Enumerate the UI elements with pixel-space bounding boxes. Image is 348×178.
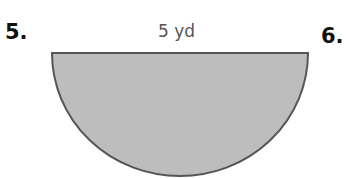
- semicircle-shape: [52, 53, 308, 176]
- semicircle-figure: [0, 0, 348, 178]
